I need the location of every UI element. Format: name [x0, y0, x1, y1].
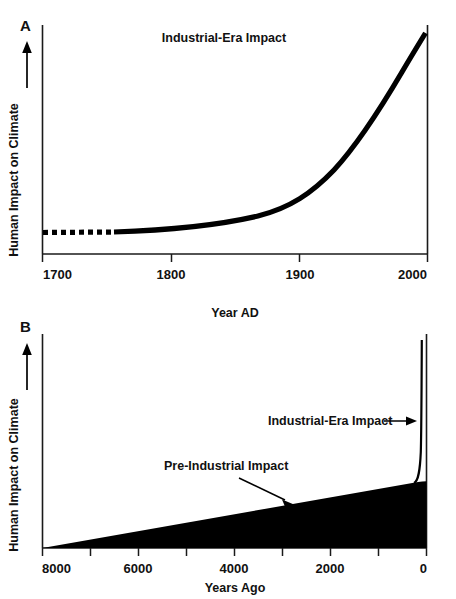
panel-a-yaxis-arrow-icon	[22, 41, 32, 88]
panel-b-xtick-label-6000: 6000	[124, 561, 153, 576]
panel-a-curve-dashed-segment	[43, 232, 115, 233]
panel-b-annotation-industrial-label: Industrial-Era Impact	[268, 414, 393, 428]
panel-b-yaxis-arrow-icon	[22, 343, 32, 390]
panel-b-y-axis-label: Human Impact on Climate	[7, 398, 21, 552]
panel-a-title: Industrial-Era Impact	[162, 31, 287, 45]
panel-a-xtick-label-2000: 2000	[398, 267, 427, 282]
panel-a-xticks	[43, 254, 428, 262]
panel-b-xtick-label-0: 0	[420, 561, 427, 576]
panel-a-xtick-label-1700: 1700	[43, 267, 72, 282]
panel-a-curve-solid	[114, 33, 426, 232]
panel-b-annotation-preindustrial-label: Pre-Industrial Impact	[164, 459, 289, 473]
panel-b-annotation-preindustrial-arrow-icon	[239, 478, 294, 508]
panel-a-letter: A	[20, 17, 31, 34]
panel-b-letter: B	[20, 318, 31, 335]
panel-b-xtick-label-4000: 4000	[220, 561, 249, 576]
panel-a-xtick-label-1800: 1800	[157, 267, 186, 282]
figure-svg: A Human Impact on Climate 1700	[0, 0, 456, 599]
panel-b-x-axis-label: Years Ago	[205, 581, 266, 595]
panel-b: B Human Impact on Climate	[7, 318, 427, 595]
panel-b-xticks	[43, 548, 427, 556]
panel-b-xtick-label-2000: 2000	[316, 561, 345, 576]
panel-a-y-axis-label: Human Impact on Climate	[7, 103, 21, 257]
panel-a: A Human Impact on Climate 1700	[7, 17, 428, 320]
panel-b-xtick-label-8000: 8000	[42, 561, 71, 576]
climate-impact-figure: A Human Impact on Climate 1700	[0, 0, 456, 599]
panel-a-x-axis-label: Year AD	[211, 306, 258, 320]
panel-b-industrial-spike	[414, 340, 422, 483]
panel-b-pre-industrial-area	[43, 481, 427, 548]
panel-a-xtick-label-1900: 1900	[286, 267, 315, 282]
